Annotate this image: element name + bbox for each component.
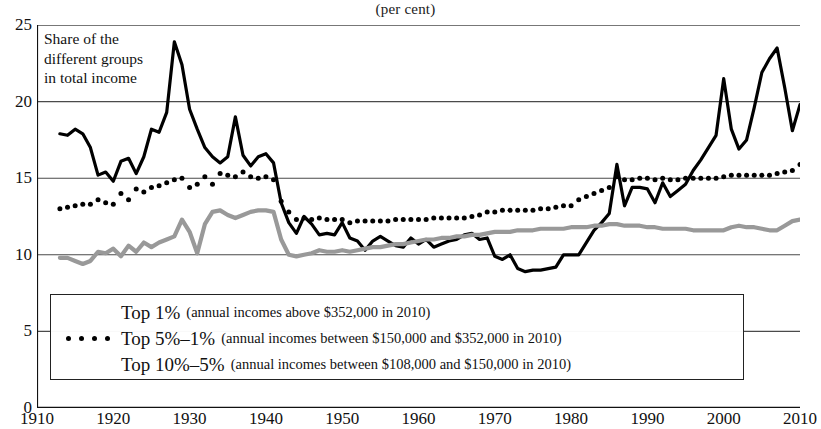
x-tick-label: 1970 xyxy=(465,409,525,428)
y-tick-label: 15 xyxy=(2,169,32,186)
x-tick-label: 1910 xyxy=(7,409,67,428)
y-tick-label: 5 xyxy=(2,322,32,339)
series-3-line xyxy=(60,210,800,264)
x-axis-tick-labels: 1910192019301940195019601970198019902000… xyxy=(0,409,811,429)
legend-series-detail: (annual incomes between $108,000 and $15… xyxy=(231,354,571,375)
x-tick-label: 1940 xyxy=(236,409,296,428)
x-tick-label: 1960 xyxy=(389,409,449,428)
y-tick-label: 20 xyxy=(2,93,32,110)
chart-unit-note: (per cent) xyxy=(0,0,811,18)
legend-series-name: Top 10%–5% xyxy=(121,354,225,375)
legend-series-detail: (annual incomes between $150,000 and $35… xyxy=(221,328,561,349)
y-tick-label: 25 xyxy=(2,16,32,33)
x-tick-label: 1980 xyxy=(541,409,601,428)
plot-annotation: Share of the different groups in total i… xyxy=(44,29,143,88)
x-tick-label: 1920 xyxy=(83,409,143,428)
x-tick-label: 2010 xyxy=(770,409,821,428)
legend-swatch-icon xyxy=(65,358,111,370)
legend-swatch-icon xyxy=(65,332,111,344)
legend-item[interactable]: Top 10%–5%(annual incomes between $108,0… xyxy=(51,351,743,377)
legend-item[interactable]: Top 5%–1%(annual incomes between $150,00… xyxy=(51,325,743,351)
series-2-dots xyxy=(57,162,800,225)
legend-swatch-icon xyxy=(65,306,111,318)
legend-item[interactable]: Top 1%(annual incomes above $352,000 in … xyxy=(51,299,743,325)
legend-series-name: Top 1% xyxy=(121,302,180,323)
x-tick-label: 2000 xyxy=(694,409,754,428)
y-axis-tick-labels: 0510152025 xyxy=(0,0,32,429)
legend-series-name: Top 5%–1% xyxy=(121,328,215,349)
x-tick-label: 1990 xyxy=(617,409,677,428)
x-tick-label: 1930 xyxy=(160,409,220,428)
y-tick-label: 10 xyxy=(2,246,32,263)
x-tick-label: 1950 xyxy=(312,409,372,428)
legend-series-detail: (annual incomes above $352,000 in 2010) xyxy=(186,302,430,323)
chart-legend: Top 1%(annual incomes above $352,000 in … xyxy=(50,294,744,380)
